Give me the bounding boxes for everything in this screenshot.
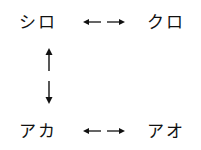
bidirectional-arrow-icon-bottom bbox=[83, 126, 125, 136]
node-shiro: シロ bbox=[19, 13, 57, 31]
node-kuro: クロ bbox=[147, 13, 185, 31]
node-aka: アカ bbox=[19, 122, 57, 140]
down-arrow-icon bbox=[44, 80, 54, 104]
node-ao: アオ bbox=[147, 122, 185, 140]
bidirectional-arrow-icon-top bbox=[83, 17, 125, 27]
up-arrow-icon bbox=[44, 48, 54, 72]
